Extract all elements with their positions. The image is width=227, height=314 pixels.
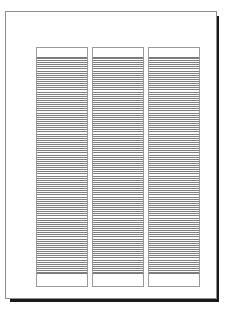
panel-left-stripes — [37, 57, 87, 274]
panel-center-stripes — [93, 57, 143, 274]
document-viewport — [0, 0, 227, 314]
panel-right-top-cap — [149, 48, 199, 57]
panel-left-bottom-cap — [37, 274, 87, 286]
panel-right[interactable] — [148, 47, 200, 287]
panel-group — [36, 47, 200, 287]
panel-right-stripes — [149, 57, 199, 274]
panel-center[interactable] — [92, 47, 144, 287]
panel-left-top-cap — [37, 48, 87, 57]
panel-center-bottom-cap — [93, 274, 143, 286]
panel-left[interactable] — [36, 47, 88, 287]
panel-right-bottom-cap — [149, 274, 199, 286]
paper-sheet — [5, 11, 217, 299]
panel-center-top-cap — [93, 48, 143, 57]
